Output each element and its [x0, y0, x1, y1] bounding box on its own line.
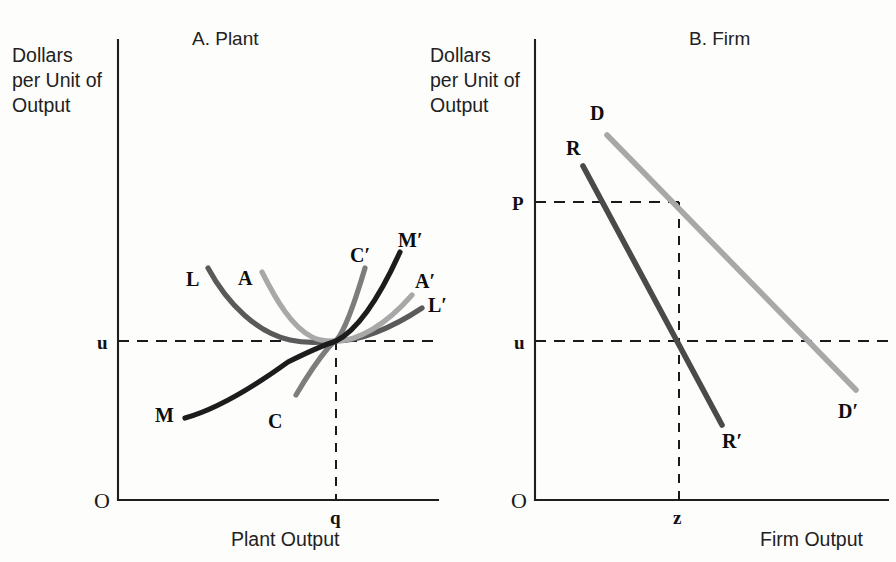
firm-line-D [607, 135, 856, 390]
firm-label-R-start: R [566, 137, 581, 159]
firm-y-caption-line2: per Unit of [430, 69, 521, 91]
plant-label-C-end: C′ [350, 244, 370, 266]
firm-z-tick-label: z [673, 507, 682, 528]
figure-canvas: A. Plant Dollars per Unit of Output O u … [0, 0, 896, 562]
firm-line-R [583, 166, 722, 425]
plant-label-C-start: C [268, 410, 282, 432]
plant-label-A-end: A′ [415, 270, 435, 292]
firm-y-caption-line1: Dollars [430, 44, 491, 66]
firm-label-R-end: R′ [722, 430, 742, 452]
plant-x-axis-name: Plant Output [231, 528, 340, 550]
plant-y-caption-line2: per Unit of [12, 69, 103, 91]
firm-u-tick-label: u [514, 332, 525, 353]
firm-x-axis-name: Firm Output [760, 528, 864, 550]
plant-label-A-start: A [238, 267, 253, 289]
panel-plant: A. Plant Dollars per Unit of Output O u … [12, 28, 447, 550]
firm-label-D-start: D [590, 102, 604, 124]
plant-label-L-end: L′ [428, 294, 447, 316]
plant-q-tick-label: q [330, 507, 341, 528]
plant-label-M-end: M′ [398, 229, 423, 251]
firm-label-D-end: D′ [838, 400, 858, 422]
firm-P-tick-label: P [512, 193, 524, 214]
plant-label-M-start: M [155, 404, 174, 426]
plant-u-tick-label: u [97, 332, 108, 353]
plant-y-caption-line3: Output [12, 94, 71, 116]
firm-panel-title: B. Firm [689, 28, 750, 49]
plant-label-L-start: L [186, 268, 199, 290]
plant-panel-title: A. Plant [192, 28, 259, 49]
plant-origin-label: O [94, 488, 110, 513]
panel-firm: B. Firm Dollars per Unit of Output O P u… [430, 28, 888, 550]
plant-curve-A [262, 272, 412, 341]
plant-y-caption-line1: Dollars [12, 44, 73, 66]
firm-origin-label: O [511, 488, 527, 513]
firm-y-caption-line3: Output [430, 94, 489, 116]
economics-figure: A. Plant Dollars per Unit of Output O u … [0, 0, 896, 562]
